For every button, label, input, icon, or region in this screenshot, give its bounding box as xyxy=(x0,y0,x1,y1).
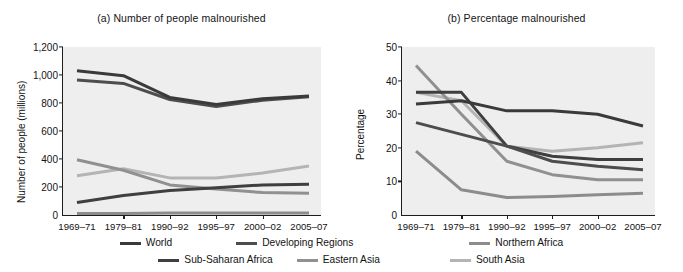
chart-b-x-tick-mark xyxy=(598,215,599,219)
chart-panel-b: (b) Percentage malnourished Percentage 0… xyxy=(341,0,682,232)
chart-a-x-tick-mark xyxy=(216,215,217,219)
chart-b-x-tick-label: 1990–92 xyxy=(488,221,525,232)
series-line-world xyxy=(416,101,643,126)
series-line-eastern-asia xyxy=(416,65,643,179)
chart-a-y-axis-label: Number of people (millions) xyxy=(16,81,27,203)
legend-label: World xyxy=(146,238,172,248)
chart-b-series-layer xyxy=(402,47,655,215)
chart-a-plot-area: 02004006008001,0001,2001969–711979–81199… xyxy=(62,47,321,216)
chart-a-x-tick-label: 1990–92 xyxy=(151,221,188,232)
legend-label: Northern Africa xyxy=(495,238,563,248)
chart-b-x-tick-mark xyxy=(552,215,553,219)
legend-swatch-icon xyxy=(450,259,471,262)
chart-a-title: (a) Number of people malnourished xyxy=(0,12,341,24)
chart-a-x-tick-mark xyxy=(263,215,264,219)
chart-a-x-tick-label: 1969–71 xyxy=(58,221,95,232)
legend-label: Developing Regions xyxy=(262,238,353,248)
legend-label: Eastern Asia xyxy=(323,255,380,265)
chart-a-x-tick-label: 1995–97 xyxy=(198,221,235,232)
legend-swatch-icon xyxy=(236,242,257,245)
chart-panel-a: (a) Number of people malnourished Number… xyxy=(0,0,341,232)
chart-b-y-tick-label: 0 xyxy=(391,210,402,221)
figure-container: (a) Number of people malnourished Number… xyxy=(0,0,683,272)
chart-legend: WorldDeveloping RegionsNorthern AfricaSu… xyxy=(0,233,683,272)
chart-b-x-tick-label: 1979–81 xyxy=(443,221,480,232)
legend-swatch-icon xyxy=(469,242,490,245)
chart-b-x-tick-mark xyxy=(461,215,462,219)
legend-swatch-icon xyxy=(158,259,179,262)
legend-swatch-icon xyxy=(120,242,141,245)
legend-label: South Asia xyxy=(476,255,525,265)
chart-b-x-tick-label: 1969–71 xyxy=(397,221,434,232)
chart-b-x-tick-mark xyxy=(507,215,508,219)
legend-item-developing-regions[interactable]: Developing Regions xyxy=(236,235,353,252)
legend-swatch-icon xyxy=(297,259,318,262)
chart-b-y-axis-label: Percentage xyxy=(355,109,366,160)
legend-item-world[interactable]: World xyxy=(120,235,172,252)
legend-item-eastern-asia[interactable]: Eastern Asia xyxy=(297,252,380,269)
series-line-world xyxy=(77,71,309,105)
chart-a-x-tick-mark xyxy=(170,215,171,219)
legend-row: WorldDeveloping RegionsNorthern Africa xyxy=(0,235,683,252)
chart-a-series-layer xyxy=(63,47,321,215)
chart-b-title: (b) Percentage malnourished xyxy=(341,12,682,24)
series-line-northern-africa xyxy=(77,213,309,214)
legend-label: Sub-Saharan Africa xyxy=(184,255,272,265)
chart-a-x-tick-label: 2005–07 xyxy=(290,221,327,232)
legend-item-sub-saharan-africa[interactable]: Sub-Saharan Africa xyxy=(158,252,272,269)
chart-b-x-tick-label: 1995–97 xyxy=(534,221,571,232)
chart-b-x-tick-label: 2000–02 xyxy=(579,221,616,232)
series-line-developing-regions xyxy=(77,80,309,107)
chart-a-x-tick-label: 2000–02 xyxy=(244,221,281,232)
chart-a-y-tick-label: 0 xyxy=(52,210,63,221)
legend-item-south-asia[interactable]: South Asia xyxy=(450,252,525,269)
legend-item-northern-africa[interactable]: Northern Africa xyxy=(469,235,563,252)
chart-a-x-tick-label: 1979–81 xyxy=(105,221,142,232)
chart-b-x-tick-label: 2005–07 xyxy=(624,221,661,232)
chart-a-x-tick-mark xyxy=(123,215,124,219)
chart-b-plot-area: 010203040501969–711979–811990–921995–972… xyxy=(401,47,655,216)
legend-row: Sub-Saharan AfricaEastern AsiaSouth Asia xyxy=(0,252,683,269)
